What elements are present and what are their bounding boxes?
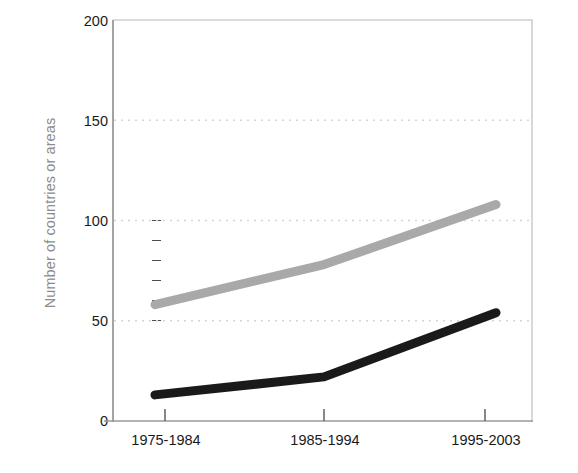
- plot-area: [0, 0, 578, 473]
- series-line-black: [155, 313, 496, 395]
- series-line-gray: [155, 205, 496, 305]
- x-tick-label-1985-1994: 1985-1994: [290, 432, 359, 448]
- x-tick-label-1975-1984: 1975-1984: [131, 432, 200, 448]
- x-tick-label-1995-2003: 1995-2003: [451, 432, 520, 448]
- data-series-group: [155, 205, 496, 395]
- x-axis-ticks: [165, 409, 485, 421]
- line-chart: Number of countries or areas 200 150 100…: [0, 0, 578, 473]
- x-axis-tick-labels: 1975-1984 1985-1994 1995-2003: [0, 432, 578, 456]
- gridlines: [114, 120, 532, 320]
